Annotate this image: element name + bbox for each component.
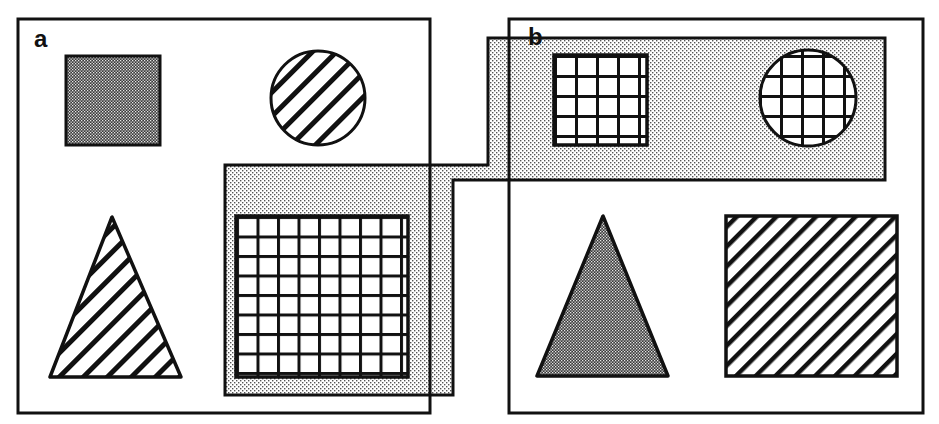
hatched-square (726, 216, 897, 376)
dark-stipple-triangle (537, 216, 668, 376)
grid-circle-grouped (758, 48, 858, 148)
hatched-triangle (50, 217, 181, 377)
figure-canvas: a b (0, 0, 939, 424)
panel-b-label: b (528, 23, 543, 50)
grid-square-grouped (236, 216, 408, 377)
dark-stipple-square (66, 56, 160, 145)
hatched-circle (271, 51, 365, 145)
panel-a-label: a (34, 25, 48, 52)
grid-square-grouped (554, 55, 647, 145)
